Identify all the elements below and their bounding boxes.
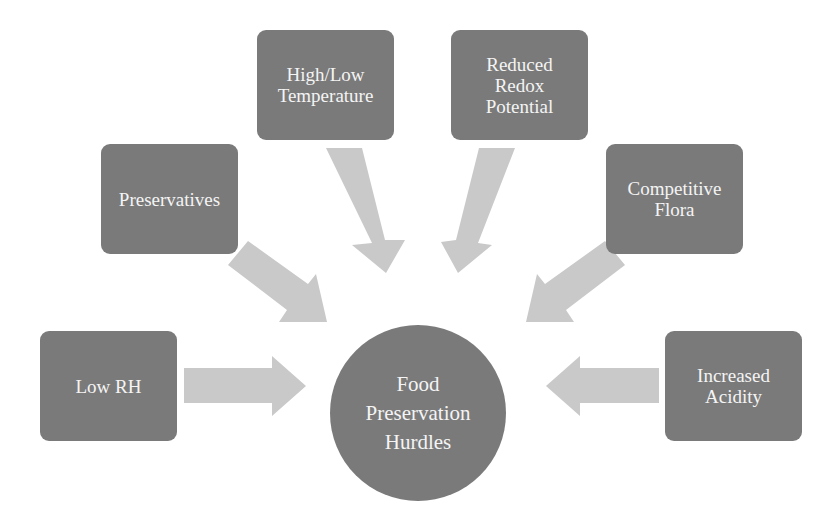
hurdle-label: Low RH: [76, 376, 142, 397]
hurdle-temperature: High/Low Temperature: [257, 30, 394, 140]
hurdle-low-rh: Low RH: [40, 331, 177, 441]
hurdle-label: Reduced Redox Potential: [486, 54, 554, 117]
hurdle-preservatives: Preservatives: [101, 144, 238, 254]
arrow-redox: [441, 148, 515, 273]
hurdle-redox: Reduced Redox Potential: [451, 30, 588, 140]
hurdle-competitive-flora: Competitive Flora: [606, 144, 743, 254]
hub-line-2: Preservation: [366, 399, 471, 428]
arrow-low-rh: [184, 356, 306, 416]
arrow-preservatives: [228, 241, 327, 322]
arrow-temperature: [326, 148, 405, 273]
hub-line-3: Hurdles: [385, 428, 452, 457]
arrow-acidity: [546, 356, 659, 416]
hurdle-label: Preservatives: [119, 189, 220, 210]
arrow-competitive-flora: [526, 241, 625, 322]
hurdle-label: Competitive Flora: [628, 178, 722, 220]
center-hub: Food Preservation Hurdles: [330, 325, 506, 501]
hurdle-label: High/Low Temperature: [278, 64, 374, 106]
hub-line-1: Food: [396, 370, 439, 399]
hurdle-label: Increased Acidity: [697, 365, 770, 407]
hurdle-acidity: Increased Acidity: [665, 331, 802, 441]
